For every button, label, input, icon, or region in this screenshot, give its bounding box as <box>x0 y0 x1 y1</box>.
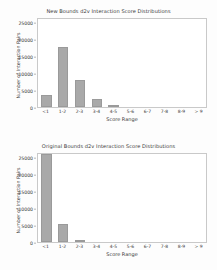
bar-slot <box>105 19 122 107</box>
bar <box>58 224 68 242</box>
x-tick-label: 3-4 <box>88 244 105 249</box>
bar-slot <box>189 154 206 242</box>
x-tick-label: 7-8 <box>156 244 173 249</box>
bar-slot <box>72 154 89 242</box>
y-tick-mark <box>34 175 36 176</box>
y-tick-label: 25000 <box>18 21 33 26</box>
y-axis-title: Number of Interaction Pairs <box>16 22 21 110</box>
x-tick-label: 5-6 <box>122 244 139 249</box>
y-tick-mark <box>34 192 36 193</box>
chart-panel-top: New Bounds d2v Interaction Score Distrib… <box>0 0 217 135</box>
bar-slot <box>55 154 72 242</box>
figure-container: New Bounds d2v Interaction Score Distrib… <box>0 0 217 270</box>
x-tick-label: > 9 <box>190 244 207 249</box>
bar-slot <box>172 19 189 107</box>
x-tick-label: 1-2 <box>54 244 71 249</box>
bar-slot <box>55 19 72 107</box>
y-tick-mark <box>34 74 36 75</box>
x-tick-label: 8-9 <box>173 244 190 249</box>
y-tick-mark <box>34 91 36 92</box>
x-axis-bottom: <11-22-33-44-55-66-77-88-9> 9 <box>37 244 207 249</box>
x-axis-top: <11-22-33-44-55-66-77-88-9> 9 <box>37 109 207 114</box>
x-tick-label: 7-8 <box>156 109 173 114</box>
y-tick-mark <box>34 243 36 244</box>
y-tick-label: 15000 <box>18 55 33 60</box>
bar-slot <box>38 154 55 242</box>
y-tick-label: 5000 <box>21 224 33 229</box>
bar <box>75 80 85 107</box>
y-tick-label: 20000 <box>18 38 33 43</box>
chart-panel-bottom: Original Bounds d2v Interaction Score Di… <box>0 135 217 270</box>
x-tick-label: <1 <box>37 244 54 249</box>
y-tick-mark <box>34 209 36 210</box>
x-tick-label: 2-3 <box>71 109 88 114</box>
plot-area-bottom <box>37 153 207 243</box>
x-axis-title: Score Range <box>37 116 207 122</box>
bar-slot <box>172 154 189 242</box>
bar-series-bottom <box>38 154 206 242</box>
bar <box>92 99 102 107</box>
bar-slot <box>139 19 156 107</box>
y-tick-label: 0 <box>30 106 33 111</box>
bar-slot <box>156 19 173 107</box>
y-tick-mark <box>34 158 36 159</box>
y-tick-label: 0 <box>30 241 33 246</box>
x-tick-label: 4-5 <box>105 109 122 114</box>
x-tick-label: 1-2 <box>54 109 71 114</box>
y-tick-mark <box>34 57 36 58</box>
bar <box>41 95 51 107</box>
bar-slot <box>122 154 139 242</box>
bar-slot <box>88 154 105 242</box>
x-axis-title: Score Range <box>37 251 207 257</box>
bar-slot <box>88 19 105 107</box>
y-tick-label: 25000 <box>18 156 33 161</box>
plot-area-top <box>37 18 207 108</box>
bar-slot <box>156 154 173 242</box>
chart-title: New Bounds d2v Interaction Score Distrib… <box>0 8 217 14</box>
y-tick-label: 20000 <box>18 173 33 178</box>
y-tick-label: 10000 <box>18 72 33 77</box>
bar-slot <box>38 19 55 107</box>
y-tick-mark <box>34 23 36 24</box>
bar-slot <box>72 19 89 107</box>
y-tick-label: 5000 <box>21 89 33 94</box>
bar <box>108 105 118 107</box>
x-tick-label: 4-5 <box>105 244 122 249</box>
y-tick-label: 15000 <box>18 190 33 195</box>
y-tick-label: 10000 <box>18 207 33 212</box>
x-tick-label: 5-6 <box>122 109 139 114</box>
x-tick-label: 6-7 <box>139 244 156 249</box>
y-axis-title: Number of Interaction Pairs <box>16 157 21 245</box>
x-tick-label: 8-9 <box>173 109 190 114</box>
y-tick-mark <box>34 226 36 227</box>
x-tick-label: 3-4 <box>88 109 105 114</box>
chart-title: Original Bounds d2v Interaction Score Di… <box>0 143 217 149</box>
bar-slot <box>105 154 122 242</box>
x-tick-label: 2-3 <box>71 244 88 249</box>
y-tick-mark <box>34 108 36 109</box>
bar <box>75 240 85 242</box>
bar-series-top <box>38 19 206 107</box>
x-tick-label: <1 <box>37 109 54 114</box>
bar-slot <box>189 19 206 107</box>
x-tick-label: > 9 <box>190 109 207 114</box>
bar-slot <box>139 154 156 242</box>
bar-slot <box>122 19 139 107</box>
bar <box>58 47 68 107</box>
bar <box>41 154 51 242</box>
x-tick-label: 6-7 <box>139 109 156 114</box>
y-tick-mark <box>34 40 36 41</box>
